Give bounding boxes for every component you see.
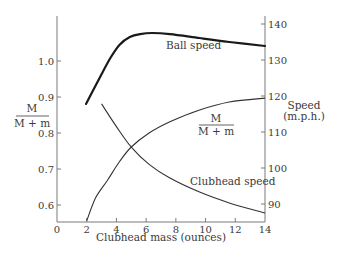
y-left-tick-label: 0.8 (38, 128, 54, 139)
x-tick-label: 0 (54, 224, 60, 235)
y-right-tick-label: 140 (268, 19, 287, 30)
y-right-label-line2: (m.p.h.) (283, 110, 325, 122)
curves (86, 33, 265, 221)
series-label-clubhead-speed: Clubhead speed (190, 175, 276, 187)
x-axis-label: Clubhead mass (ounces) (96, 231, 226, 243)
y-right-tick-label: 90 (268, 199, 281, 210)
y-left-tick-label: 0.6 (38, 200, 54, 211)
series-label-mass-ratio-denominator: M + m (198, 125, 234, 137)
y-right-tick-label: 110 (268, 127, 287, 138)
y-left-tick-label: 0.9 (38, 92, 54, 103)
series-label-ball-speed: Ball speed (166, 39, 222, 51)
series-label-mass-ratio-numerator: M (211, 112, 222, 124)
y-left-tick-label: 0.7 (38, 164, 54, 175)
y-right-tick-label: 130 (268, 55, 287, 66)
x-tick-label: 14 (259, 224, 272, 235)
mass-ratio-curve (87, 98, 265, 221)
chart-container: 024681012140.60.70.80.91.090100110120130… (0, 0, 338, 254)
y-right-tick-label: 120 (268, 91, 287, 102)
x-tick-label: 2 (84, 224, 90, 235)
y-left-tick-label: 1.0 (38, 56, 54, 67)
y-left-label-numerator: M (27, 102, 38, 114)
y-left-label-denominator: M + m (14, 117, 50, 129)
clubhead-speed-curve (102, 104, 265, 213)
labels: M M + m Speed (m.p.h.) Clubhead mass (ou… (14, 39, 325, 243)
y-right-tick-label: 100 (268, 163, 287, 174)
chart-svg: 024681012140.60.70.80.91.090100110120130… (0, 0, 338, 254)
x-tick-label: 12 (229, 224, 242, 235)
